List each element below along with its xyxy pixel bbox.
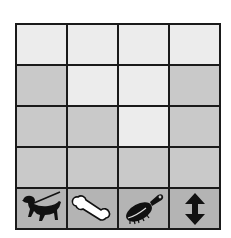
brush-icon [122, 192, 166, 226]
game-board [15, 23, 221, 230]
up-down-arrow-icon [184, 193, 206, 225]
dog-on-leash-icon [20, 191, 64, 227]
bone-icon [71, 193, 115, 225]
grid-cell-r2-c1[interactable] [68, 107, 117, 146]
grid-cell-r1-c1[interactable] [68, 66, 117, 105]
grid-cell-r1-c3[interactable] [170, 66, 219, 105]
grid-cell-r0-c2[interactable] [119, 25, 168, 64]
grid-cell-r1-c2[interactable] [119, 66, 168, 105]
grid-cell-r3-c0[interactable] [17, 148, 66, 187]
grid-cell-r2-c3[interactable] [170, 107, 219, 146]
grid-cell-r2-c0[interactable] [17, 107, 66, 146]
dog-button[interactable] [17, 189, 66, 228]
move-button[interactable] [170, 189, 219, 228]
grid-cell-r0-c0[interactable] [17, 25, 66, 64]
grid-cell-r3-c1[interactable] [68, 148, 117, 187]
grid-cell-r3-c2[interactable] [119, 148, 168, 187]
grid-cell-r0-c3[interactable] [170, 25, 219, 64]
grid-cell-r1-c0[interactable] [17, 66, 66, 105]
brush-button[interactable] [119, 189, 168, 228]
grid-cell-r2-c2[interactable] [119, 107, 168, 146]
grid-cell-r3-c3[interactable] [170, 148, 219, 187]
grid-cell-r0-c1[interactable] [68, 25, 117, 64]
bone-button[interactable] [68, 189, 117, 228]
